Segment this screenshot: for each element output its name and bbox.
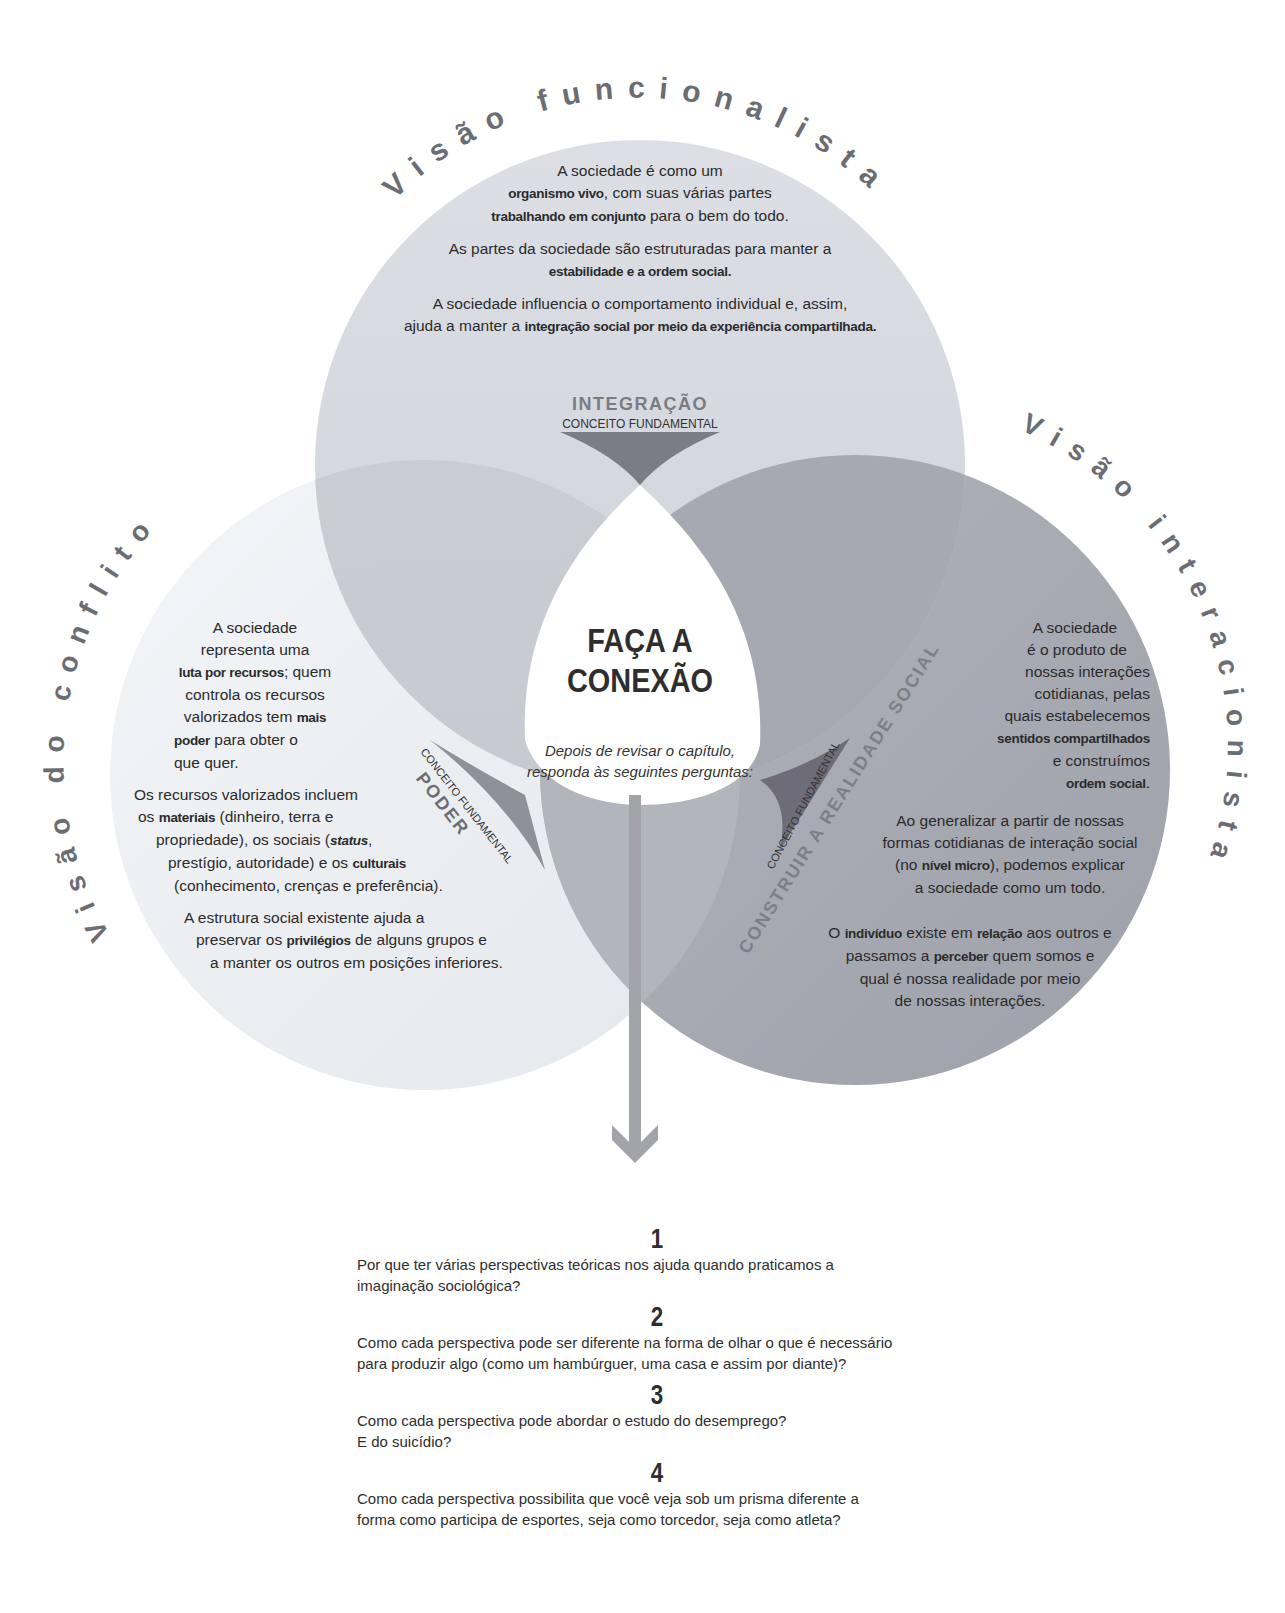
text-line: ajuda a manter a bbox=[404, 317, 525, 334]
italic-term: status bbox=[330, 833, 368, 848]
text-line: a manter os outros em posições inferiore… bbox=[210, 954, 503, 971]
text-line: ), podemos explicar bbox=[990, 856, 1125, 873]
text-line: para o bem do todo. bbox=[646, 207, 789, 224]
text-line: , bbox=[368, 831, 372, 848]
text-line: A sociedade é como um bbox=[557, 162, 722, 179]
functionalist-description: A sociedade é como um organismo vivo, co… bbox=[400, 160, 880, 348]
text-line: passamos a bbox=[846, 947, 934, 964]
text-line: propriedade), os sociais ( bbox=[156, 831, 330, 848]
bold-term: culturais bbox=[352, 856, 406, 871]
bold-term: poder bbox=[174, 733, 210, 748]
question-number: 1 bbox=[417, 1224, 897, 1254]
text-line: nossas interações bbox=[1025, 663, 1150, 680]
text-line: é o produto de bbox=[1027, 641, 1127, 658]
bold-term: perceber bbox=[934, 949, 989, 964]
text-line: existe em bbox=[902, 924, 977, 941]
text-line: A sociedade bbox=[1033, 619, 1117, 636]
bold-term: ordem social bbox=[1066, 776, 1146, 791]
text-line: A estrutura social existente ajuda a bbox=[184, 909, 424, 926]
text-line: de alguns grupos e bbox=[351, 931, 487, 948]
bold-term: relação bbox=[977, 926, 1022, 941]
interactionist-description-2: Ao generalizar a partir de nossas formas… bbox=[860, 810, 1160, 899]
bold-term: privilégios bbox=[286, 933, 350, 948]
text-line: ; quem bbox=[284, 663, 331, 680]
question-number: 4 bbox=[417, 1458, 897, 1488]
text-line: a sociedade como um todo. bbox=[915, 879, 1105, 896]
questions-list: 1 Por que ter várias perspectivas teóric… bbox=[357, 1220, 957, 1536]
text-line: preservar os bbox=[196, 931, 286, 948]
text-line: Ao generalizar a partir de nossas bbox=[896, 812, 1123, 829]
text-line: formas cotidianas de interação social bbox=[882, 834, 1137, 851]
question-text: Como cada perspectiva pode abordar o est… bbox=[357, 1412, 786, 1429]
bold-term: luta por recursos bbox=[179, 665, 284, 680]
text-line: cotidianas, pelas bbox=[1035, 685, 1150, 702]
question-item: 2 Como cada perspectiva pode ser diferen… bbox=[357, 1302, 957, 1374]
text-line: Os recursos valorizados incluem bbox=[134, 786, 358, 803]
question-text: imaginação sociológica? bbox=[357, 1277, 520, 1294]
text-line: quem somos e bbox=[988, 947, 1094, 964]
conflict-description: A sociedade representa uma luta por recu… bbox=[120, 617, 560, 974]
subtitle-line: Depois de revisar o capítulo, bbox=[510, 740, 770, 761]
text-line: que quer. bbox=[174, 754, 239, 771]
text-line: controla os recursos bbox=[185, 686, 325, 703]
question-text: Por que ter várias perspectivas teóricas… bbox=[357, 1256, 834, 1273]
text-line: qual é nossa realidade por meio bbox=[860, 970, 1081, 987]
bold-term: mais bbox=[297, 710, 327, 725]
bold-term: integração social por meio da experiênci… bbox=[525, 319, 877, 334]
text-line: , com suas várias partes bbox=[604, 184, 772, 201]
text-line: representa uma bbox=[201, 641, 310, 658]
bold-term: trabalhando em conjunto bbox=[491, 209, 645, 224]
text-line: . bbox=[1146, 774, 1150, 791]
question-item: 3 Como cada perspectiva pode abordar o e… bbox=[357, 1380, 957, 1452]
text-line: valorizados tem bbox=[184, 708, 297, 725]
question-text: Como cada perspectiva possibilita que vo… bbox=[357, 1490, 859, 1507]
text-line: prestígio, autoridade) e os bbox=[168, 854, 352, 871]
bold-term: indivíduo bbox=[845, 926, 902, 941]
title-line: CONEXÃO bbox=[555, 660, 725, 700]
bold-term: organismo vivo bbox=[508, 186, 604, 201]
question-number: 3 bbox=[417, 1380, 897, 1410]
bold-term: sentidos compartilhados bbox=[997, 731, 1150, 746]
subtitle-line: responda às seguintes perguntas: bbox=[510, 761, 770, 782]
question-number: 2 bbox=[417, 1302, 897, 1332]
question-item: 1 Por que ter várias perspectivas teóric… bbox=[357, 1224, 957, 1296]
interactionist-description-1: A sociedade é o produto de nossas intera… bbox=[980, 617, 1150, 795]
question-text: E do suicídio? bbox=[357, 1433, 451, 1450]
text-line: quais estabelecemos bbox=[1004, 707, 1150, 724]
title-line: FAÇA A bbox=[555, 620, 725, 660]
text-line: e construímos bbox=[1053, 752, 1150, 769]
text-line: As partes da sociedade são estruturadas … bbox=[449, 240, 832, 257]
text-line: O bbox=[828, 924, 844, 941]
text-line: (no bbox=[895, 856, 922, 873]
text-line: A sociedade bbox=[213, 619, 297, 636]
arrow-shaft bbox=[629, 795, 641, 1150]
question-text: para produzir algo (como um hambúrguer, … bbox=[357, 1355, 846, 1372]
concept-integracao: INTEGRAÇÃO bbox=[572, 393, 708, 414]
question-item: 4 Como cada perspectiva possibilita que … bbox=[357, 1458, 957, 1530]
text-line: de nossas interações. bbox=[895, 992, 1046, 1009]
text-line: para obter o bbox=[210, 731, 298, 748]
center-subtitle: Depois de revisar o capítulo, responda à… bbox=[510, 740, 770, 782]
interactionist-description-3: O indivíduo existe em relação aos outros… bbox=[815, 922, 1125, 1012]
text-line: A sociedade influencia o comportamento i… bbox=[433, 295, 847, 312]
text-line: (conhecimento, crenças e preferência). bbox=[174, 877, 443, 894]
bold-term: materiais bbox=[159, 810, 216, 825]
center-title: FAÇA A CONEXÃO bbox=[555, 620, 725, 700]
question-text: Como cada perspectiva pode ser diferente… bbox=[357, 1334, 892, 1351]
text-line: os bbox=[138, 808, 159, 825]
bold-term: estabilidade e a ordem social. bbox=[549, 264, 731, 279]
question-text: forma como participa de esportes, seja c… bbox=[357, 1511, 841, 1528]
bold-term: nível micro bbox=[922, 858, 990, 873]
concept-label-integracao: CONCEITO FUNDAMENTAL bbox=[562, 417, 718, 431]
text-line: aos outros e bbox=[1022, 924, 1112, 941]
text-line: (dinheiro, terra e bbox=[215, 808, 333, 825]
